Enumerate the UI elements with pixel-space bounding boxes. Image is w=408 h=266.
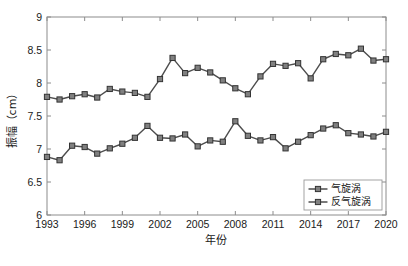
data-point-marker: 气旋涡 2016: 8.44	[333, 51, 338, 56]
data-point-marker: 反气旋涡 1993: 6.88	[44, 154, 49, 159]
amplitude-line-chart: 66.577.588.59 19931996199920022005200820…	[0, 0, 408, 266]
data-point-marker: 反气旋涡 2016: 7.36	[333, 123, 338, 128]
data-point-marker: 反气旋涡 2005: 7.04	[195, 144, 200, 149]
data-point-marker: 气旋涡 2012: 8.26	[283, 63, 288, 68]
legend-marker-sample	[315, 199, 320, 204]
data-point-marker: 反气旋涡 2011: 7.18	[270, 135, 275, 140]
data-point-marker: 气旋涡 1993: 7.79	[44, 94, 49, 99]
y-axis-title: 振幅（cm）	[5, 88, 19, 149]
data-point-marker: 反气旋涡 2003: 7.16	[170, 136, 175, 141]
data-point-marker: 气旋涡 1997: 7.78	[95, 95, 100, 100]
x-tick-label: 2014	[299, 218, 323, 230]
data-point-marker: 气旋涡 2013: 8.3	[296, 61, 301, 66]
data-point-marker: 气旋涡 2017: 8.42	[346, 53, 351, 58]
data-point-marker: 反气旋涡 2009: 7.2	[245, 133, 250, 138]
chart-figure: 66.577.588.59 19931996199920022005200820…	[0, 0, 408, 266]
x-axis-title: 年份	[205, 233, 227, 247]
legend-label: 反气旋涡	[331, 195, 371, 207]
data-point-marker: 气旋涡 2000: 7.85	[132, 90, 137, 95]
data-point-marker: 气旋涡 2019: 8.34	[371, 58, 376, 63]
data-point-marker: 气旋涡 2002: 8.06	[157, 76, 162, 81]
y-tick-label: 6.5	[27, 176, 42, 188]
data-point-marker: 反气旋涡 2018: 7.22	[358, 132, 363, 137]
y-tick-label: 7	[36, 143, 42, 155]
x-tick-label: 1993	[35, 218, 59, 230]
x-tick-label: 2002	[148, 218, 172, 230]
x-tick-label: 2011	[262, 218, 285, 230]
data-point-marker: 气旋涡 2014: 8.07	[308, 76, 313, 81]
y-tick-label: 8.5	[27, 44, 42, 56]
data-point-marker: 反气旋涡 2015: 7.31	[321, 126, 326, 131]
x-tick-label: 1999	[111, 218, 135, 230]
data-point-marker: 气旋涡 2008: 7.92	[233, 86, 238, 91]
data-point-marker: 气旋涡 1996: 7.83	[82, 92, 87, 97]
y-tick-label: 9	[36, 11, 42, 23]
data-point-marker: 反气旋涡 2017: 7.24	[346, 131, 351, 136]
data-point-marker: 气旋涡 2011: 8.29	[270, 61, 275, 66]
data-point-marker: 气旋涡 2003: 8.38	[170, 55, 175, 60]
data-point-marker: 反气旋涡 1996: 7.03	[82, 144, 87, 149]
data-point-marker: 反气旋涡 2010: 7.13	[258, 138, 263, 143]
legend-marker-sample	[315, 186, 320, 191]
data-point-marker: 反气旋涡 1997: 6.93	[95, 151, 100, 156]
data-point-marker: 气旋涡 1995: 7.8	[70, 94, 75, 99]
data-point-marker: 气旋涡 2004: 8.15	[183, 71, 188, 76]
data-point-marker: 反气旋涡 2001: 7.35	[145, 123, 150, 128]
x-tick-label: 2020	[374, 218, 398, 230]
data-point-marker: 反气旋涡 2020: 7.26	[383, 129, 388, 134]
data-point-marker: 反气旋涡 2000: 7.17	[132, 135, 137, 140]
data-point-marker: 反气旋涡 2007: 7.11	[220, 139, 225, 144]
data-point-marker: 反气旋涡 2002: 7.17	[157, 135, 162, 140]
data-point-marker: 反气旋涡 1994: 6.83	[57, 158, 62, 163]
data-point-marker: 气旋涡 2007: 8.04	[220, 78, 225, 83]
x-tick-label: 2005	[186, 218, 210, 230]
data-point-marker: 反气旋涡 1995: 7.05	[70, 143, 75, 148]
data-point-marker: 气旋涡 2015: 8.36	[321, 57, 326, 62]
y-tick-label: 8	[36, 77, 42, 89]
data-point-marker: 反气旋涡 2006: 7.13	[208, 138, 213, 143]
data-point-marker: 气旋涡 2020: 8.36	[383, 57, 388, 62]
data-point-marker: 反气旋涡 2019: 7.19	[371, 134, 376, 139]
x-tick-label: 1996	[73, 218, 97, 230]
legend-label: 气旋涡	[331, 182, 361, 194]
data-point-marker: 反气旋涡 2012: 7.01	[283, 146, 288, 151]
x-tick-label: 2008	[224, 218, 248, 230]
y-tick-label: 7.5	[27, 110, 42, 122]
chart-legend: 气旋涡反气旋涡	[304, 180, 382, 210]
data-point-marker: 反气旋涡 2014: 7.21	[308, 133, 313, 138]
data-point-marker: 反气旋涡 1998: 7.01	[107, 146, 112, 151]
data-point-marker: 反气旋涡 2013: 7.11	[296, 139, 301, 144]
data-point-marker: 气旋涡 2005: 8.23	[195, 65, 200, 70]
x-tick-label: 2017	[337, 218, 361, 230]
data-point-marker: 气旋涡 1998: 7.91	[107, 86, 112, 91]
data-point-marker: 气旋涡 2018: 8.52	[358, 46, 363, 51]
data-point-marker: 气旋涡 2010: 8.1	[258, 74, 263, 79]
data-point-marker: 气旋涡 2001: 7.79	[145, 94, 150, 99]
data-point-marker: 反气旋涡 2008: 7.42	[233, 119, 238, 124]
data-point-marker: 气旋涡 1999: 7.87	[120, 89, 125, 94]
data-point-marker: 气旋涡 2006: 8.16	[208, 70, 213, 75]
data-point-marker: 气旋涡 1994: 7.75	[57, 97, 62, 102]
data-point-marker: 反气旋涡 1999: 7.08	[120, 141, 125, 146]
data-point-marker: 气旋涡 2009: 7.83	[245, 92, 250, 97]
data-point-marker: 反气旋涡 2004: 7.22	[183, 132, 188, 137]
